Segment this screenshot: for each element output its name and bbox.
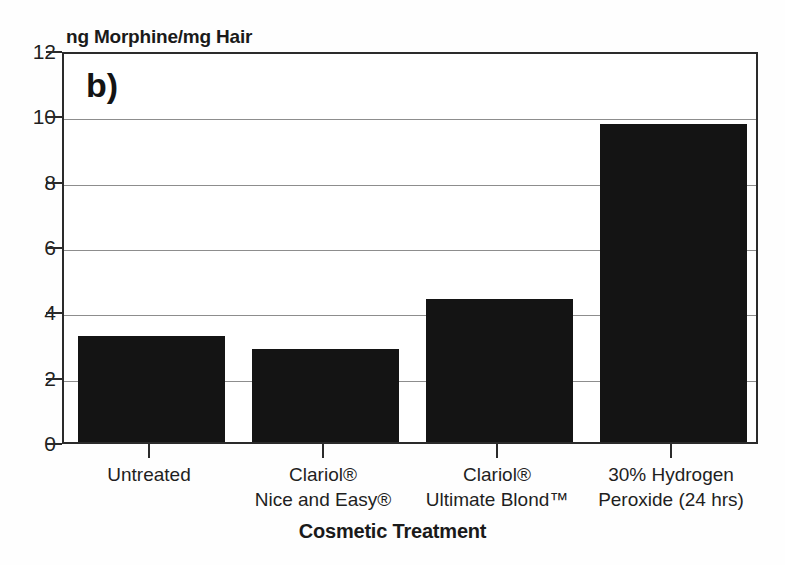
y-axis-title: ng Morphine/mg Hair xyxy=(66,26,252,48)
x-tick-label: Untreated xyxy=(107,462,190,487)
x-tick-mark xyxy=(670,444,672,458)
x-tick-label-line1: Untreated xyxy=(107,464,190,485)
figure-panel-b: ng Morphine/mg Hair b) 024681012 Untreat… xyxy=(0,0,785,565)
x-tick-label-line1: Clariol® xyxy=(289,464,357,485)
x-axis-title: Cosmetic Treatment xyxy=(0,520,785,543)
x-tick-label-line2: Ultimate Blond™ xyxy=(426,487,569,512)
x-tick-label-line1: 30% Hydrogen xyxy=(608,464,734,485)
y-tick-mark xyxy=(46,443,62,445)
bar xyxy=(426,299,573,442)
x-tick-label-line1: Clariol® xyxy=(463,464,531,485)
y-tick-mark xyxy=(46,247,62,249)
plot-area: b) xyxy=(62,52,758,444)
y-tick-mark xyxy=(46,51,62,53)
x-tick-label-line2: Nice and Easy® xyxy=(255,487,392,512)
x-tick-mark xyxy=(322,444,324,458)
x-tick-mark xyxy=(148,444,150,458)
x-tick-label-line2: Peroxide (24 hrs) xyxy=(598,487,744,512)
x-tick-label: 30% HydrogenPeroxide (24 hrs) xyxy=(598,462,744,512)
bar xyxy=(78,336,225,442)
x-tick-label: Clariol®Ultimate Blond™ xyxy=(426,462,569,512)
bar xyxy=(252,349,399,442)
y-tick-mark xyxy=(46,116,62,118)
bars-group xyxy=(64,54,756,442)
x-tick-mark xyxy=(496,444,498,458)
bar xyxy=(600,124,747,442)
x-tick-label: Clariol®Nice and Easy® xyxy=(255,462,392,512)
y-tick-mark xyxy=(46,378,62,380)
y-tick-mark xyxy=(46,312,62,314)
y-tick-mark xyxy=(46,182,62,184)
